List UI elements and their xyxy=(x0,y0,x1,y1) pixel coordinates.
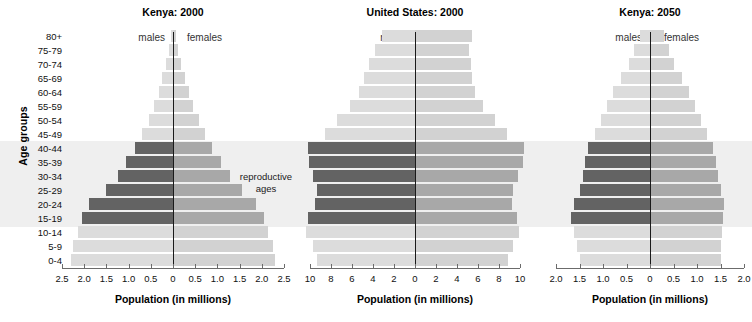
age-group-axis: 80+75-7970-7465-6960-6455-5950-5445-4940… xyxy=(14,30,62,268)
male-bar xyxy=(595,128,650,140)
age-group-tick-label: 35-39 xyxy=(14,158,62,168)
x-axis-tick xyxy=(674,264,675,268)
x-axis-tick xyxy=(129,264,130,268)
reproductive-ages-line1: reproductive xyxy=(240,171,292,182)
female-bar xyxy=(173,212,264,224)
x-axis-tick xyxy=(262,264,263,268)
female-bar xyxy=(415,72,472,84)
x-axis-tick xyxy=(627,264,628,268)
female-bar xyxy=(415,226,519,238)
female-bar xyxy=(650,72,682,84)
x-axis-tick-label: 1.5 xyxy=(567,273,593,284)
female-bar xyxy=(173,58,181,70)
x-axis-tick xyxy=(556,264,557,268)
female-bar xyxy=(415,44,469,56)
age-group-tick-label: 40-44 xyxy=(14,144,62,154)
male-bar xyxy=(166,58,173,70)
female-bar xyxy=(650,114,701,126)
female-bar xyxy=(415,156,523,168)
age-group-tick-label: 5-9 xyxy=(14,242,62,252)
x-axis-tick xyxy=(499,264,500,268)
male-bar xyxy=(364,72,415,84)
female-bar xyxy=(415,254,508,266)
x-axis-tick xyxy=(352,264,353,268)
male-bar xyxy=(640,30,650,42)
female-bar xyxy=(415,30,472,42)
age-group-tick-label: 45-49 xyxy=(14,130,62,140)
panel-title: Kenya: 2050 xyxy=(556,6,744,18)
female-bar xyxy=(415,170,518,182)
x-axis-tick xyxy=(721,264,722,268)
female-bar xyxy=(415,114,495,126)
panel-title: United States: 2000 xyxy=(310,6,520,18)
female-bar xyxy=(173,226,268,238)
female-bar xyxy=(415,58,471,70)
female-bar xyxy=(650,170,718,182)
female-bar xyxy=(173,254,275,266)
female-bar xyxy=(173,156,221,168)
male-bar xyxy=(71,254,173,266)
pyramid-panel: Kenya: 2000malesfemales2.52.01.51.00.500… xyxy=(62,0,284,322)
age-group-tick-label: 75-79 xyxy=(14,46,62,56)
male-bar xyxy=(317,184,415,196)
age-group-tick-label: 25-29 xyxy=(14,186,62,196)
male-bar xyxy=(118,170,174,182)
male-bar xyxy=(313,170,415,182)
male-bar xyxy=(350,100,415,112)
x-axis-tick xyxy=(240,264,241,268)
age-group-tick-label: 55-59 xyxy=(14,102,62,112)
x-axis-tick xyxy=(62,264,63,268)
female-bar xyxy=(650,86,689,98)
male-bar xyxy=(308,212,415,224)
male-bar xyxy=(583,170,650,182)
male-bar xyxy=(369,58,415,70)
male-bar xyxy=(73,240,173,252)
x-axis-tick xyxy=(415,264,416,268)
population-pyramid-figure: Age groups 80+75-7970-7465-6960-6455-595… xyxy=(0,0,752,322)
pyramid-panel: Kenya: 2050malesfemales2.01.51.00.500.51… xyxy=(556,0,744,322)
x-axis-line xyxy=(62,268,284,269)
male-bar xyxy=(634,44,650,56)
age-group-tick-label: 65-69 xyxy=(14,74,62,84)
male-bar xyxy=(337,114,415,126)
x-axis-tick-label: 0.5 xyxy=(614,273,640,284)
x-axis-tick xyxy=(744,264,745,268)
male-bar xyxy=(106,184,173,196)
male-bar xyxy=(82,212,173,224)
x-axis-tick xyxy=(457,264,458,268)
x-axis-title: Population (in millions) xyxy=(62,293,284,305)
male-bar xyxy=(571,212,650,224)
x-axis-tick-label: 2.0 xyxy=(731,273,752,284)
male-bar xyxy=(601,114,650,126)
x-axis-tick-label: 0.5 xyxy=(661,273,687,284)
female-bar xyxy=(650,226,722,238)
age-group-tick-label: 15-19 xyxy=(14,214,62,224)
female-bar xyxy=(650,198,724,210)
x-axis-tick xyxy=(217,264,218,268)
x-axis-title: Population (in millions) xyxy=(310,293,520,305)
male-bar xyxy=(135,142,173,154)
female-bar xyxy=(415,128,507,140)
female-bar xyxy=(650,30,664,42)
female-bar xyxy=(415,100,483,112)
female-bar xyxy=(173,72,185,84)
panel-title: Kenya: 2000 xyxy=(62,6,284,18)
male-bar xyxy=(607,100,650,112)
female-bar xyxy=(415,184,513,196)
female-bar xyxy=(173,114,199,126)
x-axis-tick xyxy=(331,264,332,268)
pyramid-panel: United States: 2000malesfemales108642024… xyxy=(310,0,520,322)
female-bar xyxy=(650,128,707,140)
age-group-tick-label: 70-74 xyxy=(14,60,62,70)
male-bar xyxy=(580,184,650,196)
x-axis-tick xyxy=(195,264,196,268)
age-group-tick-label: 30-34 xyxy=(14,172,62,182)
female-bar xyxy=(173,86,189,98)
x-axis-line xyxy=(310,268,520,269)
center-axis-line xyxy=(415,32,416,268)
x-axis-tick xyxy=(284,264,285,268)
male-bar xyxy=(78,226,173,238)
x-axis-tick xyxy=(173,264,174,268)
x-axis-tick-label: 1.0 xyxy=(590,273,616,284)
female-bar xyxy=(650,44,669,56)
